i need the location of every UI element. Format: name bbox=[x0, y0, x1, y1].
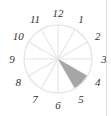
hour-label-2: 2 bbox=[95, 31, 101, 42]
hour-label-1: 1 bbox=[78, 14, 84, 25]
hour-label-11: 11 bbox=[30, 14, 40, 25]
hour-label-5: 5 bbox=[78, 93, 84, 104]
hour-label-6: 6 bbox=[55, 100, 61, 111]
hour-label-10: 10 bbox=[13, 31, 24, 42]
hour-label-8: 8 bbox=[15, 77, 21, 88]
hour-label-9: 9 bbox=[9, 54, 15, 65]
divider-line bbox=[106, 0, 107, 116]
shaded-sector bbox=[58, 59, 87, 88]
hour-label-4: 4 bbox=[95, 77, 101, 88]
hour-label-12: 12 bbox=[53, 8, 64, 19]
hour-label-7: 7 bbox=[32, 93, 38, 104]
